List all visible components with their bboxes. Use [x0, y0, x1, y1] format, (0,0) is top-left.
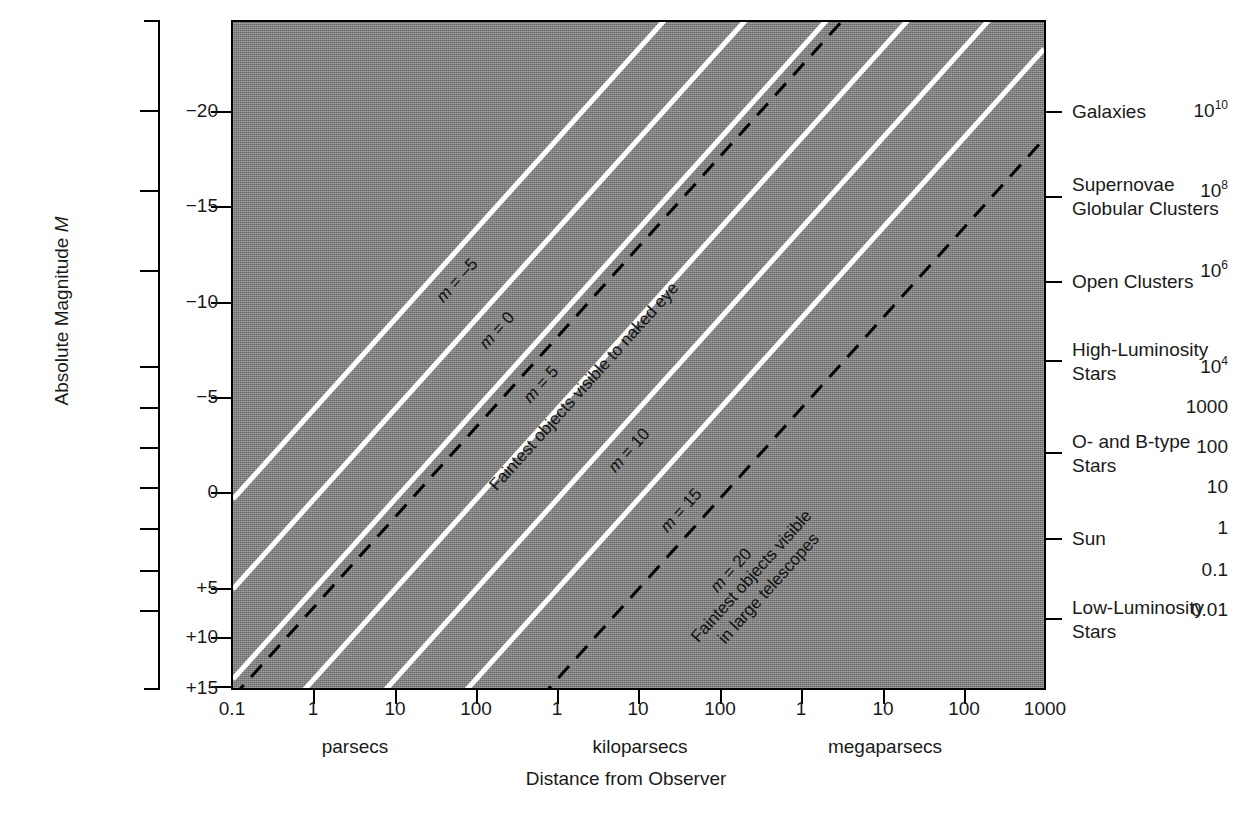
distance-axis-title: Distance from Observer: [526, 768, 727, 790]
luminosity-tick-0.1: [140, 570, 158, 572]
object-label-ob-type-stars: O- and B-type Stars: [1072, 430, 1190, 478]
luminosity-tick-1: [140, 528, 158, 530]
isomagnitude-line-m-0: [233, 22, 1044, 589]
luminosity-tick-10: [140, 487, 158, 489]
object-tick-high-luminosity-stars: [1046, 360, 1062, 362]
figure-root: 1010 108 106 104 1000 100 10 1 0.1 0.01 …: [0, 0, 1252, 813]
distance-unit-megaparsecs: megaparsecs: [828, 736, 942, 758]
magnitude-label-+15: +15: [186, 677, 218, 699]
luminosity-tick-1e8: [140, 190, 158, 192]
object-tick-low-luminosity-stars: [1046, 618, 1062, 620]
object-label-high-luminosity-stars: High-Luminosity Stars: [1072, 338, 1208, 386]
distance-label-1mpc: 1: [796, 698, 807, 720]
distance-label-0.1pc: 0.1: [219, 698, 245, 720]
object-tick-open-clusters: [1046, 281, 1062, 283]
distance-label-100pc: 100: [460, 698, 492, 720]
luminosity-axis-cap-top: [144, 20, 158, 22]
distance-label-1000mpc: 1000: [1024, 698, 1066, 720]
line-label-m-15: m = 15: [656, 484, 705, 536]
luminosity-label-1: 1: [1217, 517, 1228, 539]
luminosity-axis-cap-bottom: [144, 688, 158, 690]
luminosity-tick-1e4: [140, 366, 158, 368]
magnitude-label-+5: +5: [196, 577, 218, 599]
object-label-open-clusters: Open Clusters: [1072, 270, 1193, 294]
object-label-low-luminosity-stars: Low-Luminosity Stars: [1072, 596, 1204, 644]
magnitude-label-+10: +10: [186, 626, 218, 648]
luminosity-label-0.1: 0.1: [1202, 559, 1228, 581]
magnitude-label--15: −15: [186, 195, 218, 217]
distance-label-100mpc: 100: [948, 698, 980, 720]
object-label-sun: Sun: [1072, 527, 1106, 551]
luminosity-label-100: 100: [1196, 436, 1228, 458]
magnitude-label--20: −20: [186, 100, 218, 122]
object-tick-supernovae: [1046, 196, 1062, 198]
luminosity-label-10: 10: [1207, 476, 1228, 498]
luminosity-tick-1e6: [140, 270, 158, 272]
object-label-supernovae: Supernovae Globular Clusters: [1072, 173, 1219, 221]
isomagnitude-line-m-5: [233, 22, 1044, 679]
magnitude-label--5: −5: [196, 386, 218, 408]
object-label-galaxies: Galaxies: [1072, 100, 1146, 124]
distance-label-1kpc: 1: [552, 698, 563, 720]
distance-unit-parsecs: parsecs: [322, 736, 389, 758]
magnitude-label-0: 0: [207, 481, 218, 503]
isomagnitude-line-m-20: [233, 49, 1044, 688]
object-tick-galaxies: [1046, 111, 1062, 113]
luminosity-label-1e6: 106: [1200, 258, 1228, 281]
luminosity-tick-0.01: [140, 610, 158, 612]
magnitude-axis-title: Absolute Magnitude M: [51, 131, 73, 491]
plot-lines-svg: m = –5 m = 0 m = 5 m = 10 m = 15 m = 20 …: [233, 22, 1044, 688]
distance-label-10mpc: 10: [872, 698, 893, 720]
distance-label-100kpc: 100: [704, 698, 736, 720]
line-label-m-10: m = 10: [604, 424, 653, 476]
luminosity-tick-1000: [140, 407, 158, 409]
line-label-m-minus5: m = –5: [432, 254, 481, 306]
magnitude-label--10: −10: [186, 291, 218, 313]
line-label-m-5: m = 5: [519, 362, 562, 407]
luminosity-tick-1e10: [140, 110, 158, 112]
luminosity-label-1e10: 1010: [1194, 98, 1229, 121]
limit-line-large-telescopes: [233, 139, 1044, 688]
distance-unit-kiloparsecs: kiloparsecs: [592, 736, 687, 758]
plot-area: m = –5 m = 0 m = 5 m = 10 m = 15 m = 20 …: [231, 20, 1046, 690]
distance-label-10kpc: 10: [627, 698, 648, 720]
distance-label-10pc: 10: [384, 698, 405, 720]
object-tick-ob-type-stars: [1046, 452, 1062, 454]
distance-label-1pc: 1: [308, 698, 319, 720]
object-tick-sun: [1046, 538, 1062, 540]
luminosity-label-1000: 1000: [1186, 396, 1228, 418]
luminosity-axis: [158, 20, 160, 690]
luminosity-tick-100: [140, 447, 158, 449]
